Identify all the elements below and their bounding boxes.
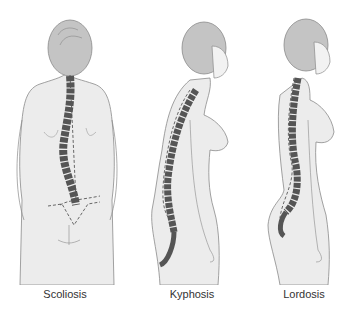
- figure-lordosis: [240, 0, 353, 285]
- caption-scoliosis: Scoliosis: [20, 288, 110, 300]
- lordosis-illustration: [240, 0, 353, 285]
- caption-lordosis: Lordosis: [259, 288, 349, 300]
- caption-kyphosis: Kyphosis: [147, 288, 237, 300]
- scoliosis-illustration: [0, 0, 130, 285]
- kyphosis-illustration: [130, 0, 240, 285]
- figure-scoliosis: [0, 0, 130, 285]
- figure-kyphosis: [130, 0, 240, 285]
